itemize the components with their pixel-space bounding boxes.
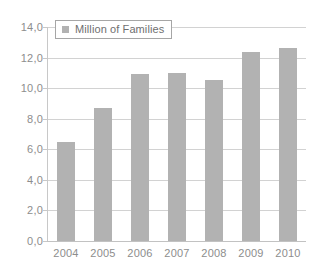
bar <box>131 74 149 241</box>
bar-chart: 0,02,04,06,08,010,012,014,0 200420052006… <box>0 0 322 274</box>
x-axis-tick-label: 2010 <box>266 247 310 259</box>
y-axis-tick-label: 6,0 <box>3 144 43 155</box>
y-axis-tick-label: 0,0 <box>3 236 43 247</box>
bar <box>168 73 186 241</box>
bar <box>279 48 297 241</box>
bar <box>94 108 112 241</box>
bar <box>57 142 75 241</box>
x-axis-line <box>47 241 306 242</box>
y-axis-tick-label: 10,0 <box>3 83 43 94</box>
plot-area <box>47 27 306 241</box>
y-axis-tick-mark <box>43 241 47 242</box>
bar <box>205 80 223 241</box>
bar <box>242 52 260 241</box>
y-axis-tick-label: 4,0 <box>3 175 43 186</box>
y-axis-tick-label: 12,0 <box>3 53 43 64</box>
legend-label: Million of Families <box>75 24 164 35</box>
y-axis-tick-label: 8,0 <box>3 114 43 125</box>
y-axis-tick-label: 14,0 <box>3 22 43 33</box>
legend: Million of Families <box>55 20 172 39</box>
y-axis-labels: 0,02,04,06,08,010,012,014,0 <box>0 0 43 274</box>
y-axis-tick-label: 2,0 <box>3 205 43 216</box>
legend-swatch-icon <box>62 26 69 33</box>
